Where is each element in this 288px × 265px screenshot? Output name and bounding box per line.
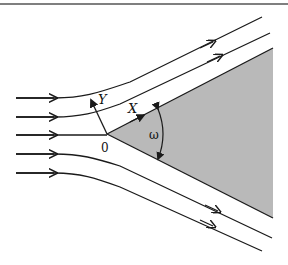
wedge-flow-diagram: Y X 0 ω: [0, 0, 288, 265]
label-origin: 0: [101, 141, 109, 155]
label-x: X: [127, 101, 138, 116]
label-omega: ω: [149, 128, 159, 142]
label-y: Y: [98, 92, 108, 107]
